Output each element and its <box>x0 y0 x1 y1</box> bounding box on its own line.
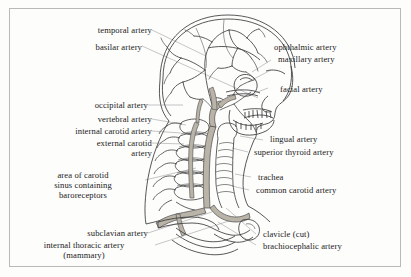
label-carotid-sinus: area of carotid sinus containing barorec… <box>22 170 144 201</box>
label-external-carotid-artery: external carotid artery <box>10 138 152 158</box>
label-facial-artery: facial artery <box>280 84 400 94</box>
label-internal-carotid-artery: internal carotid artery <box>8 126 152 136</box>
anatomical-figure: temporal artery basilar artery occipital… <box>0 0 411 277</box>
label-trachea: trachea <box>258 172 378 182</box>
label-clavicle-cut: clavicle (cut) <box>263 229 389 239</box>
label-internal-thoracic-artery: internal thoracic artery (mammary) <box>12 240 156 260</box>
label-vertebral-artery: vertebral artery <box>14 114 152 124</box>
label-lingual-artery: lingual artery <box>270 134 400 144</box>
label-temporal-artery: temporal artery <box>14 25 152 35</box>
label-basilar-artery: basilar artery <box>14 42 142 52</box>
label-common-carotid-artery: common carotid artery <box>256 185 404 195</box>
label-ophthalmic-artery: ophthalmic artery <box>274 42 404 52</box>
label-occipital-artery: occipital artery <box>14 100 148 110</box>
label-subclavian-artery: subclavian artery <box>14 228 148 238</box>
label-superior-thyroid-artery: superior thyroid artery <box>254 147 406 157</box>
label-brachiocephalic-artery: brachiocephalic artery <box>263 241 407 251</box>
label-maxillary-artery: maxillary artery <box>278 54 404 64</box>
